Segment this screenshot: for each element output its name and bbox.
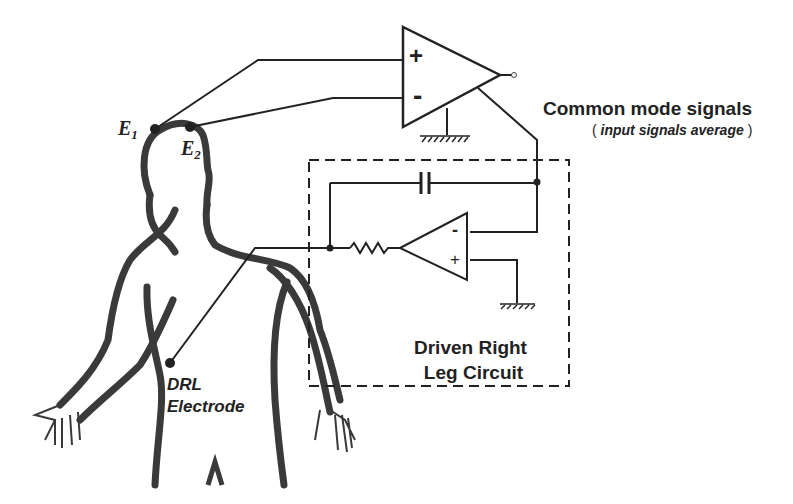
drl-amp-plus: + <box>450 250 460 270</box>
capacitor-icon <box>421 172 429 194</box>
human-body-outline <box>60 123 340 485</box>
wires <box>155 60 537 363</box>
electrode-e2-label: E2 <box>181 137 201 163</box>
schematic-drawing <box>0 0 793 504</box>
junction-node <box>327 245 334 252</box>
common-mode-title: Common mode signals <box>543 98 752 120</box>
drl-amp-minus: - <box>452 220 458 241</box>
electrode-e1-label: E1 <box>118 117 138 143</box>
drl-diagram: + - - + E1 E2 DRLElectrode Common mode s… <box>0 0 793 504</box>
ground-icon <box>500 304 535 309</box>
common-mode-note: ( input signals average ) <box>592 122 752 138</box>
ground-icon <box>420 136 470 142</box>
junction-node <box>534 179 541 186</box>
crotch-mark <box>208 462 222 485</box>
inst-amp-minus: - <box>413 80 422 112</box>
output-terminal <box>512 73 517 78</box>
drl-electrode-label: DRLElectrode <box>167 374 244 418</box>
inst-amp-plus: + <box>409 42 423 70</box>
drl-circuit-label: Driven Right Leg Circuit <box>414 335 527 385</box>
